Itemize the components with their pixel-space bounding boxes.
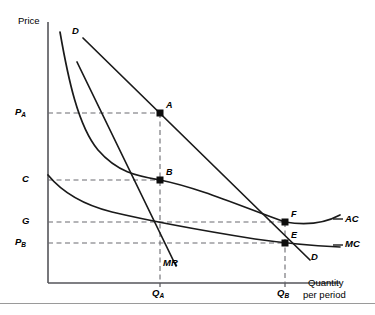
point-marker-F bbox=[282, 219, 289, 226]
quantity-tick-label-qa: QA bbox=[152, 288, 164, 299]
quantity-tick-qb-sub: B bbox=[284, 292, 289, 299]
quantity-tick-qa-sub: A bbox=[159, 292, 164, 299]
y-axis-label: Price bbox=[18, 16, 40, 26]
price-tick-c-base: C bbox=[22, 173, 29, 184]
plot-canvas bbox=[0, 0, 375, 315]
marginal-cost-curve-label: MC bbox=[345, 239, 360, 249]
demand-curve-label-top: D bbox=[72, 26, 79, 36]
price-tick-pb-sub: B bbox=[21, 241, 26, 248]
price-tick-g-base: G bbox=[22, 215, 29, 226]
marginal-revenue-curve-label: MR bbox=[163, 258, 178, 268]
point-label-F: F bbox=[291, 210, 297, 220]
price-tick-label-c: C bbox=[22, 174, 29, 185]
price-tick-pa-sub: A bbox=[21, 111, 26, 118]
demand-curve-label-right: D bbox=[311, 252, 318, 262]
marginal-revenue-curve bbox=[77, 62, 176, 266]
price-tick-label-pb: PB bbox=[15, 237, 26, 248]
point-marker-B bbox=[157, 177, 164, 184]
demand-curve bbox=[83, 38, 310, 260]
average-cost-curve-label: AC bbox=[345, 214, 359, 224]
point-marker-E bbox=[282, 240, 289, 247]
average-cost-curve bbox=[60, 32, 340, 224]
x-axis-label-line1: Quantity bbox=[308, 278, 343, 288]
price-tick-label-g: G bbox=[22, 216, 29, 227]
point-label-B: B bbox=[166, 168, 173, 178]
economics-diagram: Price Quantity per period PA C G PB QA Q… bbox=[0, 0, 375, 315]
quantity-tick-label-qb: QB bbox=[277, 288, 289, 299]
x-axis-label-line2: per period bbox=[303, 290, 346, 300]
point-label-A: A bbox=[166, 101, 173, 111]
point-label-E: E bbox=[291, 231, 297, 241]
point-marker-A bbox=[157, 110, 164, 117]
bottom-divider bbox=[0, 303, 375, 304]
price-tick-label-pa: PA bbox=[15, 107, 26, 118]
